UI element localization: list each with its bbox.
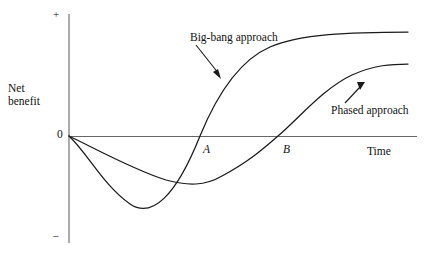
series-label-phased: Phased approach (331, 104, 409, 117)
breakeven-point-b-label: B (283, 143, 290, 156)
x-axis-label: Time (367, 145, 391, 158)
y-axis-label-line1: Net (8, 82, 25, 94)
breakeven-point-a-label: A (203, 143, 210, 156)
annotation-arrow-phased (345, 82, 365, 103)
series-curve-big-bang (69, 32, 408, 208)
annotation-arrow-big-bang (196, 45, 221, 79)
y-axis-label-line2: benefit (8, 95, 40, 107)
y-axis-label: Netbenefit (8, 82, 40, 108)
y-axis-negative-tick-label: – (53, 229, 59, 241)
origin-zero-label: 0 (57, 128, 63, 141)
net-benefit-chart: Netbenefit + – 0 Time A B Big-bang appro… (0, 0, 428, 254)
series-label-big-bang: Big-bang approach (190, 31, 278, 44)
y-axis-positive-tick-label: + (53, 8, 59, 20)
